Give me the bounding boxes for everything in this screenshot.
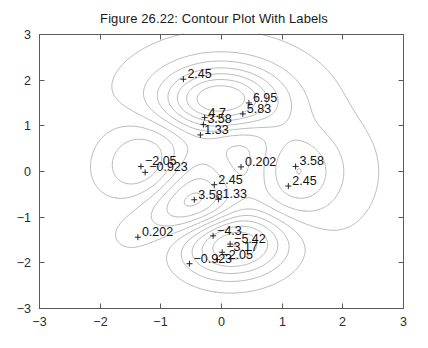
axis-ticks-group: −3−2−10123−3−2−10123 xyxy=(17,28,407,329)
contour-label-text: 5.83 xyxy=(247,102,271,116)
contour-label: 2.45 xyxy=(285,174,316,189)
x-tick-label: 3 xyxy=(400,315,407,329)
y-tick-label: 2 xyxy=(24,74,31,88)
contour-label-text: 3.58 xyxy=(300,154,324,168)
x-tick-label: −2 xyxy=(93,315,107,329)
contour-label-text: 2.45 xyxy=(187,67,211,81)
y-tick-label: 0 xyxy=(24,165,31,179)
contour-label: 2.45 xyxy=(180,67,211,82)
contour-label-text: 1.33 xyxy=(204,123,228,137)
contour-label-text: 0.202 xyxy=(142,225,173,239)
contour-label: 3.58 xyxy=(191,188,222,203)
axis-frame-group xyxy=(40,35,404,309)
x-tick-label: −1 xyxy=(153,315,167,329)
contour-label-text: −0.923 xyxy=(193,252,232,266)
contour-label: −0.923 xyxy=(186,252,232,267)
contour-label-text: 2.45 xyxy=(218,173,242,187)
contour-label: 3.58 xyxy=(293,154,324,169)
contour-label: 0.202 xyxy=(135,225,173,240)
contour-line xyxy=(297,169,301,174)
y-tick-label: 3 xyxy=(24,28,31,42)
contour-figure: Figure 26.22: Contour Plot With Labels −… xyxy=(0,0,428,348)
y-tick-label: 1 xyxy=(24,119,31,133)
contour-label-text: 1.33 xyxy=(223,187,247,201)
y-tick-label: −1 xyxy=(17,211,31,225)
contour-label-text: −0.923 xyxy=(149,160,188,174)
x-tick-label: 1 xyxy=(279,315,286,329)
contour-label-text: 2.45 xyxy=(292,174,316,188)
contour-label: 0.202 xyxy=(238,155,276,170)
contour-labels-group: 2.456.955.834.73.581.33−2.05−0.9230.2023… xyxy=(135,67,324,266)
y-tick-label: −2 xyxy=(17,256,31,270)
plot-frame xyxy=(40,35,404,309)
contour-line xyxy=(276,140,326,198)
contour-label: 5.83 xyxy=(240,102,271,117)
x-tick-label: 0 xyxy=(218,315,225,329)
contour-plot-canvas: −3−2−10123−3−2−10123 2.456.955.834.73.58… xyxy=(0,0,428,348)
y-tick-label: −3 xyxy=(17,302,31,316)
contour-label-text: 0.202 xyxy=(245,155,276,169)
x-tick-label: 2 xyxy=(339,315,346,329)
contour-label: −0.923 xyxy=(142,160,188,175)
contour-label: 2.45 xyxy=(211,173,242,188)
x-tick-label: −3 xyxy=(32,315,46,329)
